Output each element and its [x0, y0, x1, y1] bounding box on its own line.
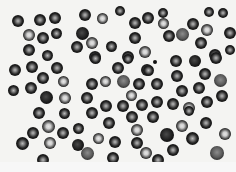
red-blood-cell — [131, 137, 143, 149]
red-blood-cell — [140, 147, 152, 159]
red-blood-cell — [224, 27, 236, 39]
red-blood-cell — [81, 92, 93, 104]
red-blood-cell — [58, 76, 69, 87]
red-blood-cell — [117, 100, 129, 112]
red-blood-cell — [112, 62, 124, 74]
red-blood-cell — [23, 44, 35, 56]
red-blood-cell — [216, 90, 228, 102]
red-blood-cell — [133, 78, 145, 90]
red-blood-cell — [225, 45, 235, 55]
red-blood-cell — [40, 91, 53, 104]
red-blood-cell — [71, 41, 83, 53]
red-blood-cell — [37, 32, 49, 44]
red-blood-cell — [51, 28, 62, 39]
red-blood-cell — [160, 128, 174, 142]
red-blood-cell — [33, 107, 45, 119]
red-blood-cell — [51, 62, 63, 74]
red-blood-cell — [170, 55, 182, 67]
red-blood-cell — [195, 37, 207, 49]
red-blood-cell — [115, 6, 125, 16]
red-blood-cell — [117, 75, 130, 88]
red-blood-cell — [186, 132, 199, 145]
red-blood-cell — [73, 123, 84, 134]
red-blood-cell — [167, 98, 179, 110]
red-blood-cell — [200, 117, 212, 129]
red-blood-cell — [86, 78, 98, 90]
red-blood-cell — [199, 68, 211, 80]
red-blood-cell — [143, 65, 154, 76]
red-blood-cell — [42, 50, 53, 61]
red-blood-cell — [139, 46, 151, 58]
red-blood-cell — [8, 85, 19, 96]
red-blood-cell — [79, 9, 91, 21]
image-bottom-margin — [0, 162, 236, 172]
red-blood-cell — [210, 52, 222, 64]
red-blood-cell — [76, 27, 89, 40]
red-blood-cell — [42, 120, 55, 133]
red-blood-cell — [129, 17, 141, 29]
red-blood-cell — [109, 136, 121, 148]
red-blood-cell — [93, 133, 104, 144]
red-blood-cell — [158, 8, 168, 18]
red-blood-cell — [184, 106, 194, 116]
red-blood-cell — [123, 54, 133, 64]
red-blood-cell — [214, 74, 227, 87]
red-blood-cell — [158, 18, 169, 29]
red-blood-cell — [97, 13, 108, 24]
red-blood-cell — [167, 144, 179, 156]
red-blood-cell — [27, 127, 39, 139]
red-blood-cell — [23, 29, 35, 41]
red-blood-cell — [129, 32, 141, 44]
red-blood-cell — [57, 127, 69, 139]
red-blood-cell — [147, 111, 159, 123]
red-blood-cell — [136, 99, 148, 111]
red-blood-cell — [219, 128, 231, 140]
red-blood-cell — [151, 96, 163, 108]
red-blood-cell — [126, 90, 137, 101]
red-blood-cell — [81, 147, 94, 160]
red-blood-cell — [171, 70, 183, 82]
platelet — [153, 60, 157, 64]
red-blood-cell — [189, 55, 201, 67]
red-blood-cell — [100, 100, 112, 112]
red-blood-cell — [9, 64, 21, 76]
red-blood-cell — [210, 146, 224, 160]
red-blood-cell — [176, 85, 188, 97]
red-blood-cell — [218, 8, 228, 18]
red-blood-cell — [25, 82, 37, 94]
red-blood-cell — [151, 78, 163, 90]
red-blood-cell — [86, 107, 98, 119]
red-blood-cell — [126, 111, 138, 123]
red-blood-cell — [176, 120, 188, 132]
red-blood-cell — [193, 82, 205, 94]
red-blood-cell — [106, 41, 117, 52]
red-blood-cell — [201, 24, 213, 36]
red-blood-cell — [176, 28, 189, 41]
red-blood-cell — [204, 7, 214, 17]
red-blood-cell — [59, 108, 70, 119]
red-blood-cell — [131, 124, 143, 136]
red-blood-cell — [103, 117, 115, 129]
red-blood-cell — [49, 12, 61, 24]
red-blood-cell — [44, 137, 56, 149]
red-blood-cell — [12, 15, 24, 27]
red-blood-cell — [163, 30, 175, 42]
red-blood-cell — [59, 92, 71, 104]
red-blood-cell — [187, 18, 199, 30]
red-blood-cell — [201, 96, 213, 108]
red-blood-cell — [37, 72, 49, 84]
red-blood-cell — [100, 76, 111, 87]
red-blood-cell — [142, 12, 154, 24]
red-blood-cell — [26, 61, 38, 73]
red-blood-cell — [86, 37, 98, 49]
red-blood-cell — [34, 14, 46, 26]
red-blood-cell — [16, 137, 29, 150]
blood-smear-micrograph — [0, 0, 236, 172]
red-blood-cell — [90, 53, 101, 64]
